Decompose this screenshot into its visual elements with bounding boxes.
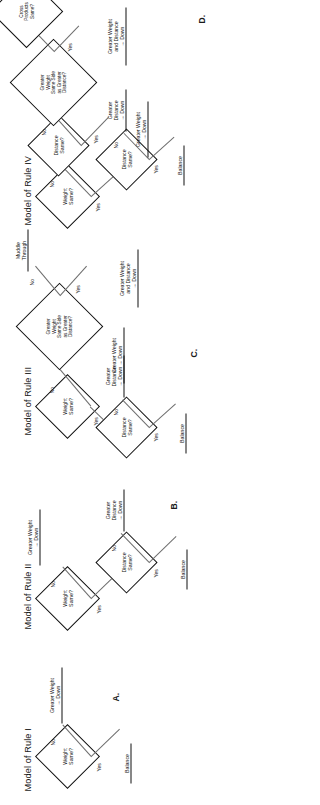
edge-label-yes-gw-r3: Yes [74, 285, 80, 293]
panel-title-rule-3: Model of Rule III [22, 366, 32, 435]
node-label: Weight Same? [61, 396, 73, 417]
node-label: Distance Same? [120, 550, 132, 574]
edge-yes-gw-r3 [59, 265, 87, 295]
edge-label-no-r4: No [48, 180, 54, 187]
terminal-greater-weight-down-r4: Greater Weight → Down [134, 101, 148, 157]
node-label: Distance Same? [52, 133, 64, 157]
panel-title-rule-1: Model of Rule I [22, 728, 32, 791]
node-cross-products-same-r4: Cross Products Same? [0, 0, 52, 37]
node-distance-same-r3: Distance Same? [104, 405, 148, 449]
panel-title-rule-2: Model of Rule II [22, 563, 32, 629]
edge-yes-distance-yes-r4 [148, 136, 174, 159]
edge-label-yes-r3: Yes [92, 417, 98, 425]
edge-yes-distance-r2 [148, 536, 176, 563]
node-label: Distance Same? [120, 415, 132, 439]
edge-label-no-distance-no-r4: No [40, 128, 46, 135]
panel-rule-2: Model of Rule II Weight Same? No Greater… [0, 460, 320, 635]
panel-rule-4: Model of Rule IV Weight Same? Yes Distan… [0, 1, 320, 233]
terminal-greater-distance-down-r2: Greater Distance → Down [104, 489, 124, 531]
terminal-balance-yes-r4: Balance [176, 145, 184, 185]
node-greater-weight-side-r3: Greater Weight Same Side as Greater Dist… [28, 295, 90, 357]
panel-letter-a: A. [110, 692, 120, 701]
edge-yes-distance-r3 [148, 403, 175, 428]
terminal-greater-weight-down-r1: Greater Weight → Down [48, 667, 62, 723]
edge-label-yes-distance-no-r4: Yes [92, 135, 98, 143]
edge-label-yes-r1: Yes [95, 763, 101, 771]
edge-label-no-distance-r3: No [112, 408, 118, 415]
terminal-balance-r3: Balance [178, 413, 186, 453]
panel-letter-c: C. [188, 348, 198, 357]
edge-label-no-r1: No [49, 738, 55, 745]
edge-yes-r1 [90, 728, 119, 757]
terminal-greater-weight-down-r2: Greater Weight → Down [26, 509, 40, 565]
edge-label-no-r3: No [48, 386, 54, 393]
node-label: Greater Weight Same Side as Greater Dist… [39, 69, 66, 96]
edge-label-yes-r2: Yes [95, 605, 101, 613]
terminal-balance-r2: Balance [179, 549, 187, 589]
edge-label-no-distance-r2: No [110, 544, 116, 551]
edge-label-yes-distance-r2: Yes [152, 569, 158, 577]
edge-label-yes-distance-r3: Yes [152, 433, 158, 441]
node-label: Weight Same? [61, 746, 73, 767]
edge-label-no-r2: No [49, 580, 55, 587]
node-label: Cross Products Same? [18, 0, 34, 22]
node-label: Weight Same? [61, 186, 73, 207]
terminal-greater-distance-down-r4: Greater Distance → Down [106, 89, 126, 131]
panel-letter-d: D. [196, 14, 206, 23]
edge-label-yes-gw-r4: Yes [66, 43, 72, 51]
terminal-greater-weight-down-r3: Greater Weight → Down [110, 327, 124, 383]
panel-rule-1: Model of Rule I Weight Same? Yes Balance… [0, 647, 320, 797]
terminal-greater-weight-and-distance-down-r3: Greater Weight and Distance → Down [118, 249, 138, 307]
terminal-muddle-through-r3: Muddle Through [14, 229, 28, 271]
panel-letter-b: B. [168, 500, 178, 509]
figure-sheet: Model of Rule I Weight Same? Yes Balance… [0, 0, 320, 805]
panel-title-rule-4: Model of Rule IV [22, 155, 32, 225]
terminal-balance-r1: Balance [123, 743, 131, 783]
node-label: Weight Same? [61, 588, 73, 609]
node-greater-weight-side-r4: Greater Weight Same Side as Greater Dist… [22, 51, 84, 113]
edge-label-no-distance-yes-r4: No [112, 141, 118, 148]
node-label: Greater Weight Same Side as Greater Dist… [45, 313, 72, 340]
edge-no-gw-r3 [35, 265, 60, 295]
node-label: Distance Same? [120, 147, 132, 171]
edge-label-no-gw-r3: No [28, 278, 34, 285]
figure-rotation-frame: Model of Rule I Weight Same? Yes Balance… [0, 0, 320, 805]
edge-label-yes-r4: Yes [94, 203, 100, 211]
terminal-greater-weight-and-distance-down-r4: Greater Weight and Distance → Down [106, 7, 126, 65]
panel-rule-3: Model of Rule III Weight Same? Yes Dista… [0, 243, 320, 453]
edge-label-yes-distance-yes-r4: Yes [152, 165, 158, 173]
